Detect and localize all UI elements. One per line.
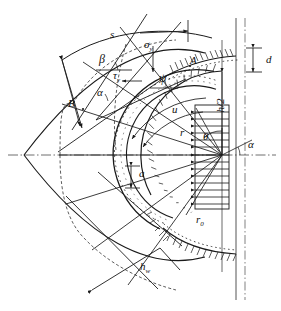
alpha-left-angle-marker bbox=[105, 94, 108, 101]
label-h-over-2: h/2 bbox=[213, 100, 227, 111]
label-alpha-left: α bbox=[97, 87, 103, 98]
label-point-A: A bbox=[190, 55, 197, 66]
label-tau-y: τy bbox=[113, 70, 120, 84]
label-h-bottom: hw bbox=[140, 261, 150, 275]
s-dimension bbox=[62, 60, 80, 126]
label-d: d bbox=[266, 54, 272, 65]
label-r0: r0 bbox=[196, 214, 204, 228]
vertical-boundary-lines bbox=[222, 18, 245, 300]
label-point-B: B bbox=[68, 98, 75, 109]
tunnel-lining-annulus bbox=[113, 70, 216, 229]
label-a: a bbox=[139, 168, 145, 179]
figure-canvas: s β σy τy ψ α A B d h/2 θ α u r r0 a hw bbox=[0, 0, 281, 311]
label-r: r bbox=[180, 127, 184, 138]
label-sigma-y: σy bbox=[144, 39, 153, 53]
label-theta: θ bbox=[203, 131, 208, 142]
ground-surface-bottom bbox=[163, 224, 237, 261]
r0-leader bbox=[186, 155, 222, 215]
label-u: u bbox=[172, 104, 178, 115]
label-psi: ψ bbox=[159, 72, 166, 84]
label-alpha-right: α bbox=[248, 139, 254, 150]
load-distribution-block bbox=[195, 105, 229, 209]
d-dimension bbox=[246, 48, 262, 72]
label-s: s bbox=[110, 29, 114, 40]
h-bottom-dimension bbox=[92, 248, 180, 290]
label-beta: β bbox=[99, 53, 105, 65]
